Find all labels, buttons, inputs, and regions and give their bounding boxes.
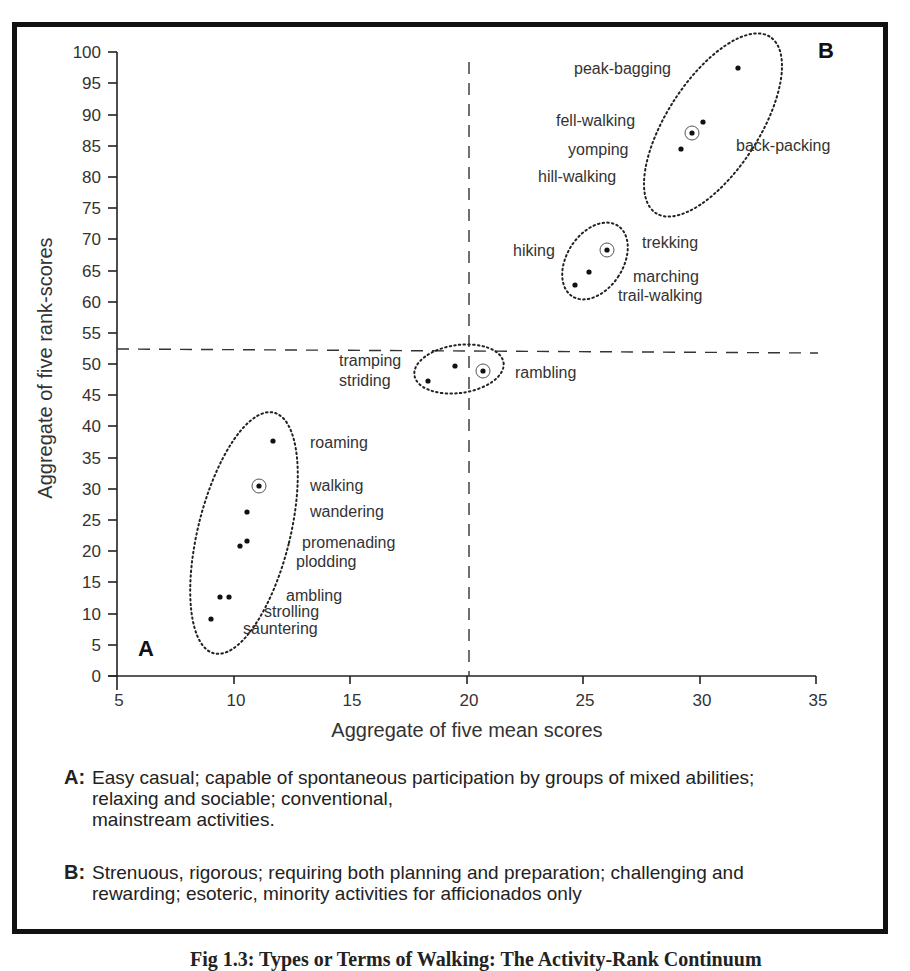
point-trekking (604, 247, 609, 252)
label-tramping: tramping (339, 352, 401, 369)
svg-text:55: 55 (82, 324, 101, 343)
svg-text:60: 60 (82, 293, 101, 312)
point-hiking (572, 282, 577, 287)
svg-text:0: 0 (92, 667, 101, 686)
note-a-key: A: (64, 767, 85, 788)
point-marching (586, 269, 591, 274)
svg-text:30: 30 (82, 480, 101, 499)
point-tramping (452, 363, 457, 368)
svg-text:10: 10 (82, 605, 101, 624)
cluster-ellipse-rambling (411, 339, 507, 399)
label-sauntering: sauntering (243, 620, 318, 637)
point-ambling (226, 594, 231, 599)
svg-text:5: 5 (92, 636, 101, 655)
svg-text:100: 100 (73, 43, 101, 62)
label-plodding: plodding (296, 553, 357, 570)
svg-text:50: 50 (82, 355, 101, 374)
point-rambling (480, 368, 485, 373)
label-walking: walking (309, 477, 363, 494)
svg-text:35: 35 (82, 449, 101, 468)
svg-text:45: 45 (82, 386, 101, 405)
point-wandering (244, 509, 249, 514)
x-tick-labels: 5 10 15 20 25 30 35 (114, 691, 827, 710)
label-trail-walking: trail-walking (618, 287, 702, 304)
region-label-a: A (138, 636, 154, 661)
note-b-key: B: (64, 862, 85, 883)
label-marching: marching (633, 268, 699, 285)
svg-text:80: 80 (82, 168, 101, 187)
label-rambling: rambling (515, 364, 576, 381)
point-yomping (678, 146, 683, 151)
note-a-text2: mainstream activities. (92, 809, 852, 830)
y-axis-title: Aggregate of five rank-scores (34, 237, 56, 498)
label-hiking: hiking (513, 242, 555, 259)
label-back-packing: back-packing (736, 137, 830, 154)
note-b: B: Strenuous, rigorous; requiring both p… (92, 862, 852, 904)
point-plodding (237, 543, 242, 548)
svg-text:20: 20 (82, 542, 101, 561)
point-walking (256, 483, 261, 488)
point-striding (425, 378, 430, 383)
point-roaming (270, 438, 275, 443)
svg-text:30: 30 (693, 691, 712, 710)
svg-text:40: 40 (82, 417, 101, 436)
point-promenading (244, 538, 249, 543)
label-striding: striding (339, 372, 391, 389)
svg-text:15: 15 (82, 573, 101, 592)
label-peak-bagging: peak-bagging (574, 60, 671, 77)
point-labels: peak-bagging fell-walking yomping hill-w… (243, 60, 830, 637)
label-strolling: strolling (264, 603, 319, 620)
figure-caption: Fig 1.3: Types or Terms of Walking: The … (190, 948, 762, 971)
svg-text:75: 75 (82, 199, 101, 218)
region-label-b: B (818, 38, 834, 63)
cluster-ellipse-b (617, 12, 809, 238)
svg-text:90: 90 (82, 106, 101, 125)
x-axis-title: Aggregate of five mean scores (331, 719, 602, 741)
svg-text:25: 25 (576, 691, 595, 710)
y-tick-labels: 100 95 90 85 80 75 70 65 60 55 50 45 40 … (73, 43, 101, 686)
y-axis (108, 52, 117, 690)
label-hill-walking: hill-walking (538, 168, 616, 185)
label-wandering: wandering (309, 503, 384, 520)
svg-text:10: 10 (227, 691, 246, 710)
label-ambling: ambling (286, 587, 342, 604)
point-peak-bagging (735, 65, 740, 70)
label-roaming: roaming (310, 434, 368, 451)
svg-text:35: 35 (809, 691, 828, 710)
svg-text:15: 15 (343, 691, 362, 710)
svg-text:65: 65 (82, 262, 101, 281)
x-axis (108, 676, 816, 684)
note-b-text: Strenuous, rigorous; requiring both plan… (92, 862, 837, 904)
svg-text:95: 95 (82, 74, 101, 93)
svg-text:20: 20 (460, 691, 479, 710)
label-fell-walking: fell-walking (556, 112, 635, 129)
note-a: A: Easy casual; capable of spontaneous p… (92, 767, 852, 830)
label-promenading: promenading (302, 534, 395, 551)
point-fell-walking (689, 130, 694, 135)
point-strolling (217, 594, 222, 599)
horizontal-reference-line (117, 349, 818, 353)
svg-text:85: 85 (82, 137, 101, 156)
label-yomping: yomping (568, 141, 628, 158)
note-a-text: Easy casual; capable of spontaneous part… (92, 767, 782, 809)
data-points (208, 65, 740, 621)
point-sauntering (208, 616, 213, 621)
label-trekking: trekking (642, 234, 698, 251)
svg-text:5: 5 (114, 691, 123, 710)
point-back-packing (700, 119, 705, 124)
svg-text:25: 25 (82, 511, 101, 530)
svg-text:70: 70 (82, 230, 101, 249)
